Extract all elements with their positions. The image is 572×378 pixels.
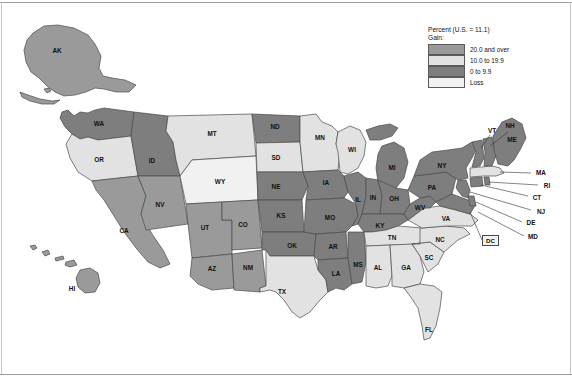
state-label-KY: KY (376, 222, 386, 229)
state-label-ID: ID (149, 157, 156, 164)
state-label-OR: OR (94, 156, 104, 163)
state-label-HI: HI (69, 285, 76, 292)
state-label-ND: ND (270, 123, 280, 130)
state-label-VA: VA (442, 215, 451, 222)
state-label-CA: CA (119, 227, 129, 234)
state-label-MT: MT (207, 130, 216, 137)
state-label-WA: WA (94, 120, 105, 127)
legend-title-line2: Gain: (428, 34, 568, 42)
state-label-AL: AL (374, 264, 383, 271)
state-label-NH: NH (505, 122, 515, 129)
state-AK-aleutians-2 (44, 88, 51, 93)
state-RI[interactable] (484, 177, 490, 185)
state-label-SD: SD (272, 154, 281, 161)
state-label-LA: LA (332, 270, 341, 277)
state-NE[interactable] (257, 172, 308, 200)
state-label-WV: WV (415, 204, 426, 211)
state-label-MI: MI (388, 164, 395, 171)
legend-label-0: 20.0 and over (470, 46, 509, 53)
state-NJ[interactable] (456, 180, 470, 198)
legend-item-0[interactable]: 20.0 and over (428, 44, 568, 55)
leader-line-RI (489, 182, 538, 185)
state-label-RI: RI (544, 182, 551, 189)
state-label-FL: FL (425, 326, 433, 333)
state-HI-oahu (42, 250, 50, 256)
legend-swatch-0 (428, 44, 465, 55)
state-label-WY: WY (215, 178, 226, 185)
leader-line-MA (500, 172, 531, 173)
state-FL[interactable] (404, 284, 442, 340)
state-label-SC: SC (425, 254, 434, 261)
state-label-MA: MA (536, 169, 546, 176)
state-label-AZ: AZ (208, 265, 217, 272)
legend-swatch-3 (428, 77, 465, 88)
state-AK-aleutians-1 (20, 92, 60, 104)
state-label-NJ: NJ (537, 208, 546, 215)
legend-item-2[interactable]: 0 to 9.9 (428, 66, 568, 77)
state-label-OK: OK (287, 242, 297, 249)
state-MN[interactable] (300, 114, 340, 172)
state-label-NY: NY (438, 162, 448, 169)
state-label-NM: NM (243, 264, 253, 271)
state-label-NC: NC (435, 236, 445, 243)
state-label-TN: TN (388, 234, 397, 241)
state-label-MS: MS (353, 261, 363, 268)
state-label-AR: AR (328, 243, 338, 250)
state-AK[interactable] (24, 25, 136, 96)
state-HI-bigisland[interactable] (76, 268, 100, 293)
state-label-DE: DE (527, 219, 537, 226)
state-CT[interactable] (470, 177, 483, 187)
state-label-AK: AK (52, 47, 62, 54)
legend-label-2: 0 to 9.9 (470, 68, 491, 75)
state-label-DC: DC (482, 235, 499, 246)
legend-title-line1: Percent (U.S. = 11.1) (428, 26, 568, 34)
state-label-NE: NE (272, 183, 282, 190)
state-label-PA: PA (428, 184, 437, 191)
state-label-KS: KS (277, 212, 287, 219)
state-label-MN: MN (315, 134, 325, 141)
state-label-CT: CT (533, 194, 542, 201)
state-label-ME: ME (507, 136, 517, 143)
state-MA[interactable] (470, 166, 504, 177)
leader-line-MD (478, 212, 524, 236)
legend-swatch-2 (428, 66, 465, 77)
state-MS[interactable] (348, 232, 366, 284)
state-label-UT: UT (201, 224, 210, 231)
state-label-GA: GA (401, 264, 411, 271)
legend-label-3: Loss (470, 79, 484, 86)
state-label-OH: OH (389, 195, 399, 202)
state-label-VT: VT (488, 127, 496, 134)
state-label-WI: WI (348, 146, 356, 153)
map-legend: Percent (U.S. = 11.1) Gain: 20.0 and ove… (428, 26, 568, 88)
state-HI-maui (65, 260, 77, 267)
state-HI-kauai (30, 245, 37, 250)
map-figure: AK HI WA OR CA ID NV MT WY UT CO AZ NM (0, 0, 572, 378)
state-label-CO: CO (238, 221, 248, 228)
legend-item-3[interactable]: Loss (428, 77, 568, 88)
state-label-IA: IA (323, 179, 330, 186)
legend-item-1[interactable]: 10.0 to 19.9 (428, 55, 568, 66)
state-label-MD: MD (528, 233, 538, 240)
legend-rows: 20.0 and over 10.0 to 19.9 0 to 9.9 Loss (428, 44, 568, 88)
state-label-MO: MO (325, 214, 335, 221)
state-HI-molokai (55, 256, 64, 261)
state-NM[interactable] (232, 250, 266, 292)
state-MI[interactable] (366, 124, 398, 140)
state-label-IN: IN (370, 194, 377, 201)
state-AZ[interactable] (190, 254, 234, 290)
legend-swatch-1 (428, 55, 465, 66)
state-label-TX: TX (278, 288, 287, 295)
legend-label-1: 10.0 to 19.9 (470, 57, 504, 64)
state-label-IL: IL (355, 196, 361, 203)
leader-line-CT (481, 185, 528, 196)
state-label-NV: NV (156, 201, 166, 208)
